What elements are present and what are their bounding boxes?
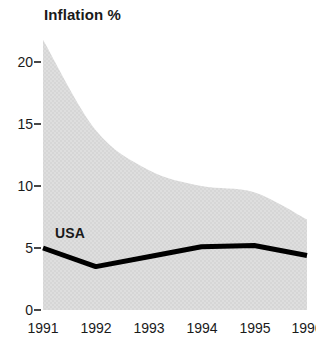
x-tick-label-1991: 1991 — [13, 320, 73, 336]
y-tick-label-10: 10 — [0, 178, 33, 194]
y-tick-label-20: 20 — [0, 54, 33, 70]
y-tick-label-15: 15 — [0, 116, 33, 132]
y-tick-label-5: 5 — [0, 240, 33, 256]
x-tick-label-1996: 1996 — [277, 320, 316, 336]
x-tick-label-1993: 1993 — [119, 320, 179, 336]
series-label-usa: USA — [55, 225, 85, 241]
y-tick-label-0: 0 — [0, 302, 33, 318]
y-axis-ticks — [34, 62, 41, 310]
x-tick-label-1992: 1992 — [66, 320, 126, 336]
x-tick-label-1994: 1994 — [172, 320, 232, 336]
chart-plot-area — [0, 0, 316, 341]
x-tick-label-1995: 1995 — [225, 320, 285, 336]
inflation-chart-figure: Inflation % 20 15 10 5 0 1991 1992 1993 … — [0, 0, 316, 341]
uncertainty-band — [43, 40, 307, 310]
